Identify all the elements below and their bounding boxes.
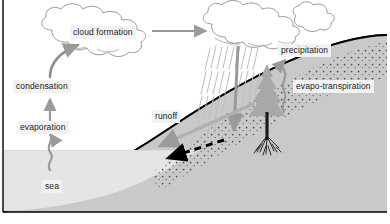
label-evapo-transpiration: evapo-transpiration xyxy=(293,80,374,93)
label-evaporation: evaporation xyxy=(17,121,69,134)
label-cloud-formation: cloud formation xyxy=(70,26,136,39)
water-cycle-diagram: cloud formation condensation evaporation… xyxy=(0,0,390,224)
label-condensation: condensation xyxy=(13,80,71,93)
label-sea: sea xyxy=(42,180,62,193)
label-runoff: runoff xyxy=(152,110,180,123)
label-precipitation: precipitation xyxy=(278,44,331,57)
